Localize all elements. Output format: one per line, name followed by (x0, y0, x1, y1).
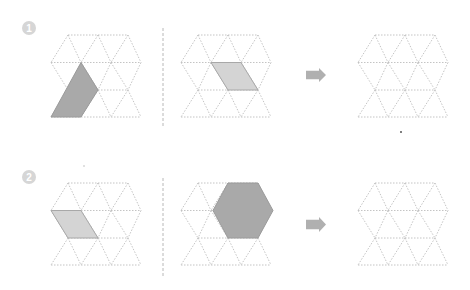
right-arrow-icon (306, 68, 326, 82)
problem-1: 1 (22, 21, 448, 128)
problem-number-badge: 2 (22, 170, 36, 184)
dark-parallelogram (51, 63, 98, 118)
svg-text:1: 1 (26, 23, 32, 34)
left-grid (51, 183, 141, 265)
answer-grid (358, 183, 448, 265)
light-rhombus (211, 63, 258, 91)
stray-mark (400, 131, 402, 133)
diagram-canvas: 12 (0, 0, 470, 290)
problem-number-badge: 1 (22, 21, 36, 35)
right-arrow-icon (306, 217, 326, 232)
middle-grid (181, 35, 271, 117)
problem-2: 2 (22, 170, 448, 278)
answer-grid (358, 35, 448, 117)
light-rhombus (51, 211, 98, 239)
svg-text:2: 2 (26, 172, 32, 183)
dark-hexagon (213, 183, 273, 238)
stray-mark (83, 165, 85, 167)
left-grid (51, 35, 141, 117)
middle-grid (181, 183, 273, 265)
